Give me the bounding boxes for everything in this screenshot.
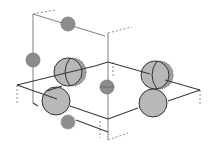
unit-cell-diagram <box>0 0 210 146</box>
top-left-stub <box>33 10 55 14</box>
bottom-front <box>76 120 108 132</box>
top-right-stub <box>108 27 132 33</box>
atom-center-small-icon <box>100 80 114 94</box>
mid-center-right <box>108 108 138 119</box>
bottom-left <box>33 103 38 106</box>
bottom-right-stub <box>108 133 128 140</box>
mid-center-front <box>70 106 108 119</box>
atom-front-left-large-icon <box>42 87 70 115</box>
crystal-structure-svg <box>0 0 210 146</box>
atom-bottom-small-icon <box>61 115 75 129</box>
atom-mid-right-large-icon <box>141 61 173 89</box>
mid-front-right <box>168 90 200 101</box>
atom-top-small-icon <box>61 17 75 31</box>
atom-front-right-large-icon <box>139 89 167 117</box>
atom-left-small-icon <box>26 53 40 67</box>
mid-back-right <box>95 62 108 66</box>
mid-right-front <box>165 80 200 90</box>
